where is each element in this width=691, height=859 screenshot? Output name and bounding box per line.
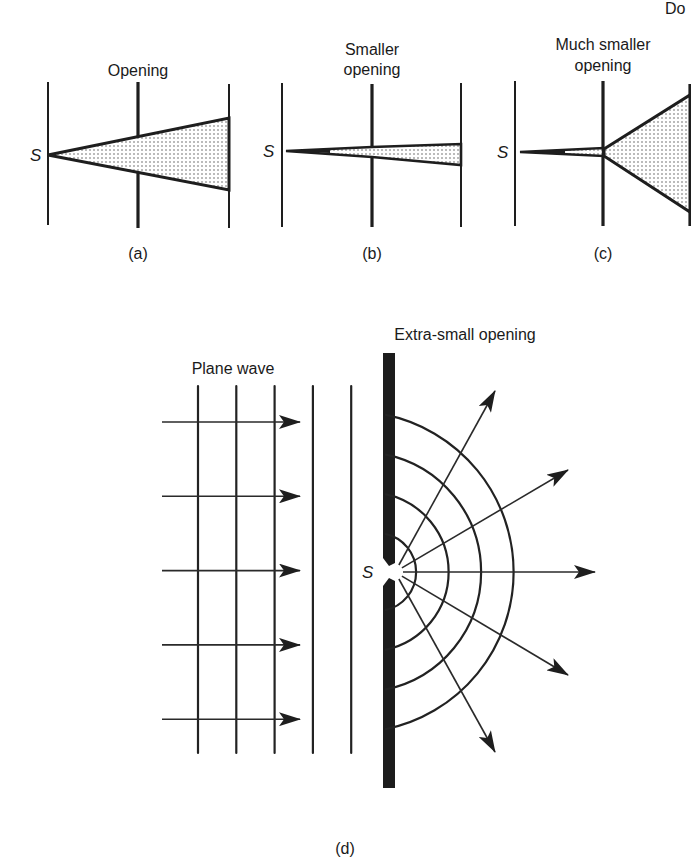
opening-label: Extra-small opening [394, 326, 535, 343]
corner-text: Do [665, 0, 686, 17]
panel-b: Smaller opening S (b) [263, 41, 461, 262]
diffracted-ray-arrow [399, 391, 495, 565]
panel-c-title-line1: Much smaller [555, 36, 651, 53]
panel-d-caption: (d) [335, 840, 355, 857]
panel-c-caption: (c) [594, 245, 613, 262]
panel-b-title-line1: Smaller [345, 41, 400, 58]
panel-c-diffracted-cone [604, 95, 690, 212]
panel-c-source-label: S [497, 143, 509, 162]
diffracted-rays [399, 391, 595, 752]
panel-a-title: Opening [108, 62, 169, 79]
panel-c: Much smaller opening S (c) [497, 36, 690, 262]
plane-wave-label: Plane wave [192, 360, 275, 377]
diffracted-ray-arrow [399, 579, 495, 752]
panel-b-source-label: S [263, 142, 275, 161]
plane-wavefronts [198, 386, 351, 753]
diffraction-figure: Do Opening S (a) Smaller opening S (b) M… [0, 0, 691, 859]
panel-a-caption: (a) [128, 245, 148, 262]
incident-rays [162, 422, 300, 719]
panel-c-title-line2: opening [575, 57, 632, 74]
panel-a: Opening S (a) [30, 62, 229, 262]
panel-d-source-label: S [362, 563, 374, 582]
panel-a-source-label: S [30, 146, 42, 165]
diffracted-ray-arrow [402, 470, 568, 568]
panel-d: Plane wave Extra-small opening S (d) [162, 326, 595, 857]
panel-b-caption: (b) [362, 245, 382, 262]
panel-b-title-line2: opening [344, 61, 401, 78]
